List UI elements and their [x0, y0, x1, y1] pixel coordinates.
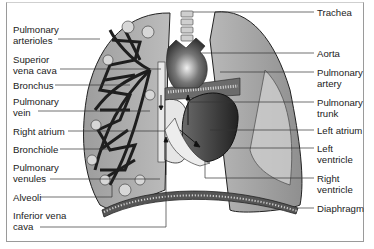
label-pulmonary-trunk: Pulmonary trunk	[317, 97, 363, 119]
aorta	[166, 38, 207, 88]
label-aorta: Aorta	[317, 48, 340, 59]
label-right-ventricle: Right ventricle	[317, 173, 353, 195]
label-diaphragm: Diaphragm	[317, 203, 364, 214]
label-alveoli: Alveoli	[13, 192, 41, 203]
label-left-atrium: Left atrium	[317, 125, 362, 136]
superior-vena-cava	[158, 62, 165, 162]
label-left-ventricle: Left ventricle	[317, 143, 353, 165]
label-bronchus: Bronchus	[13, 80, 54, 91]
label-bronchiole: Bronchiole	[13, 144, 58, 155]
label-superior-vena-cava: Superior vena cava	[13, 54, 57, 76]
label-trachea: Trachea	[317, 7, 352, 18]
label-pulmonary-vein: Pulmonary vein	[13, 96, 59, 118]
label-pulmonary-artery: Pulmonary artery	[317, 67, 363, 89]
label-pulmonary-venules: Pulmonary venules	[13, 162, 59, 184]
label-right-atrium: Right atrium	[13, 126, 65, 137]
label-inferior-vena-cava: Inferior vena cava	[13, 210, 66, 232]
trachea	[181, 11, 193, 41]
label-pulmonary-arterioles: Pulmonary arterioles	[13, 24, 59, 46]
